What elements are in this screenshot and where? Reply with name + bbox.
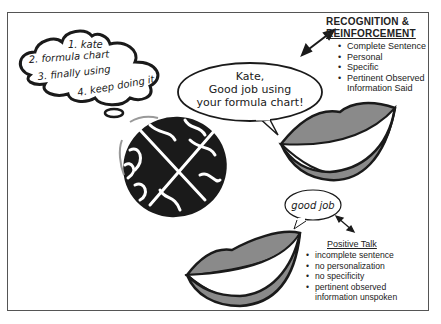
recognition-title: RECOGNITION & REINFORCEMENT <box>326 16 416 40</box>
brain-icon <box>109 102 241 232</box>
positive-talk-list: incomplete sentence no personalization n… <box>306 250 400 303</box>
positive-speech-bubble: good job <box>285 190 341 229</box>
recognition-item: Complete Sentence <box>340 41 437 52</box>
positive-talk-item: incomplete sentence <box>306 250 400 261</box>
recognition-item: Pertinent Observed Information Said <box>340 73 437 94</box>
recognition-item: Specific <box>340 62 437 73</box>
positive-talk-item: no specificity <box>306 271 400 282</box>
recognition-speech-line-1: Kate, <box>236 70 264 83</box>
lips-lower-icon <box>187 232 300 306</box>
recognition-speech-line-3: your formula chart! <box>196 96 303 109</box>
recognition-item: Personal <box>340 52 437 63</box>
recognition-list: Complete Sentence Personal Specific Pert… <box>340 41 437 94</box>
positive-talk-item: no personalization <box>306 261 400 272</box>
lips-upper-icon <box>281 103 395 180</box>
thought-dot <box>105 109 123 117</box>
small-double-arrow-icon <box>336 216 354 232</box>
recognition-title-line-2: REINFORCEMENT <box>326 28 416 40</box>
recognition-title-line-1: RECOGNITION & <box>326 16 416 28</box>
positive-talk-title: Positive Talk <box>327 239 377 249</box>
positive-speech-text: good job <box>291 200 334 211</box>
positive-talk-item: pertinent observed information unspoken <box>306 282 400 303</box>
thought-cloud: 1. kate 2. formula chart 3. finally usin… <box>20 31 158 117</box>
recognition-speech-line-2: Good job using <box>209 83 291 96</box>
